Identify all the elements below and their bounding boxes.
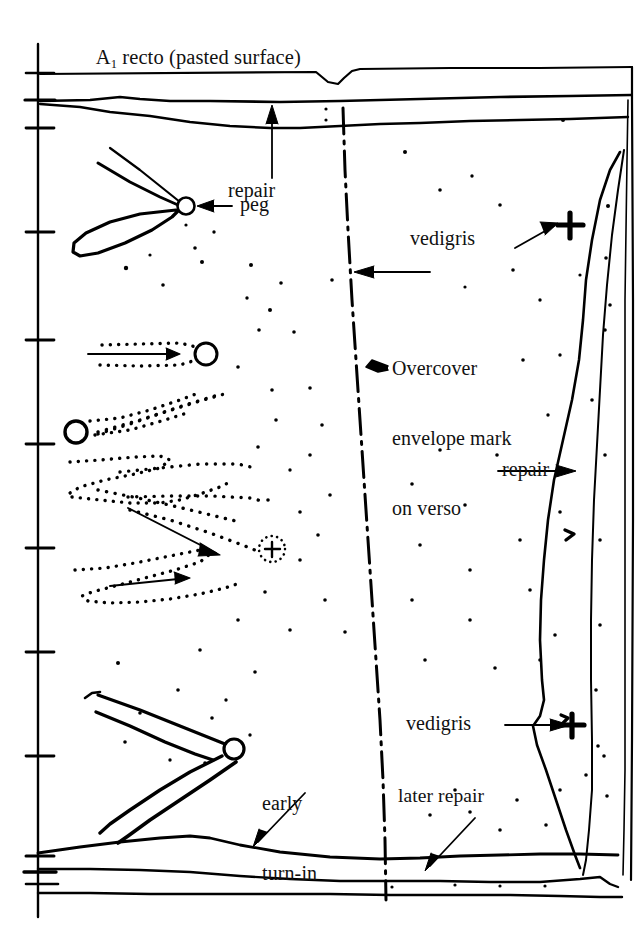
dotted-halo-cross-mark bbox=[259, 536, 285, 562]
label-early-turn-in-line-1: early bbox=[262, 792, 317, 815]
label-later-repair: later repair bbox=[398, 785, 484, 806]
label-early-turn-in: early turn-in bbox=[262, 745, 317, 932]
right-repair-edge bbox=[533, 100, 628, 875]
annotation-leaders bbox=[197, 105, 576, 871]
page-title-rest: recto (pasted surface) bbox=[117, 46, 301, 68]
page-title-prefix: A bbox=[96, 46, 111, 68]
lower-left-turn-in-shape bbox=[85, 692, 236, 843]
label-overcover-envelope-mark: Overcover envelope mark on verso bbox=[392, 310, 512, 567]
upper-left-turn-in-shape bbox=[73, 148, 195, 256]
bottom-edges bbox=[38, 836, 622, 897]
label-vedigris-bottom: vedigris bbox=[406, 713, 471, 735]
left-measurement-axis bbox=[24, 44, 58, 917]
label-early-turn-in-line-2: turn-in bbox=[262, 862, 317, 885]
page-title: A1 recto (pasted surface) bbox=[76, 24, 301, 90]
page-title-subscript: 1 bbox=[111, 57, 117, 71]
peg-hole-circles bbox=[65, 343, 244, 759]
figure-container: A1 recto (pasted surface) repair peg ved… bbox=[0, 0, 643, 933]
label-peg: peg bbox=[240, 194, 269, 216]
label-overcover-line-3: on verso bbox=[392, 497, 512, 520]
label-overcover-line-2: envelope mark bbox=[392, 427, 512, 450]
sewing-thread-dotted-paths bbox=[70, 343, 240, 603]
label-overcover-line-1: Overcover bbox=[392, 357, 512, 380]
label-repair-right: repair bbox=[502, 459, 549, 481]
label-vedigris-top: vedigris bbox=[410, 228, 475, 250]
overcover-envelope-dash-dot-line bbox=[343, 108, 386, 900]
